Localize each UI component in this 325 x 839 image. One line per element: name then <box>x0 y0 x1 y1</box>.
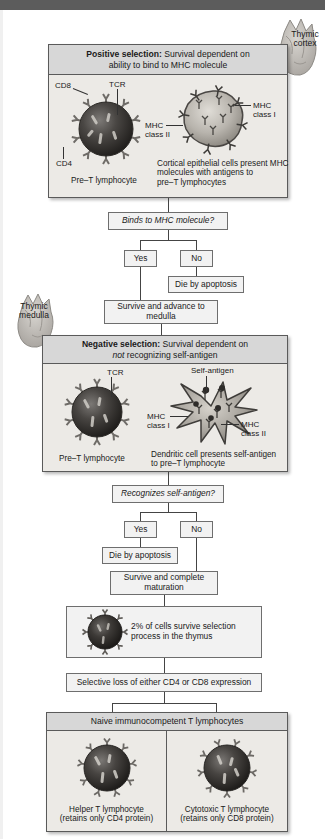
connector-decision2-split <box>140 512 197 513</box>
cytotoxic-t-lymphocyte-cell-container: Cytotoxic T lymphocyte (retains only CD8… <box>167 731 287 831</box>
cortical-epithelial-caption-line3: pre–T lymphocytes <box>157 178 226 187</box>
decision1-no-box: No <box>180 250 213 267</box>
connector-survive-to-negative-panel <box>161 324 162 335</box>
positive-selection-panel: Positive selection: Survival dependent o… <box>48 44 288 198</box>
survive-maturation-line2: maturation <box>144 582 184 592</box>
cd4-leader-line <box>63 147 64 159</box>
naive-t-lymphocytes-panel: Naive immunocompetent T lymphocytes <box>46 712 288 832</box>
surviving-t-cell-illustration <box>77 607 133 657</box>
self-antigen-leader-line <box>206 376 207 391</box>
thymic-medulla-label-line2: medulla <box>19 310 49 320</box>
pre-t-lymphocyte-cell-negative <box>57 376 137 448</box>
selective-loss-label: Selective loss of either CD4 or CD8 expr… <box>77 678 252 688</box>
survive-advance-medulla-box: Survive and advance to medulla <box>104 300 218 324</box>
helper-t-caption-line1: Helper T lymphocyte <box>69 805 144 814</box>
mhc-class-ii-line2-positive: class II <box>145 130 170 139</box>
die-by-apoptosis-box-1: Die by apoptosis <box>168 276 244 293</box>
mhc-class-ii-line1-positive: MHC <box>145 121 163 130</box>
thymic-cortex-label-line2: cortex <box>293 38 316 48</box>
cytotoxic-t-lymphocyte-caption: Cytotoxic T lymphocyte (retains only CD8… <box>167 805 287 824</box>
positive-selection-header-line2: ability to bind to MHC molecule <box>109 60 227 70</box>
connector-decision1-no-down <box>196 240 197 250</box>
connector-naive-right-down <box>216 703 217 712</box>
survive-maturation-line1: Survive and complete <box>124 572 205 582</box>
dendritic-cell-caption: Dendritic cell presents self-antigen to … <box>151 450 276 469</box>
connector-survival-to-selective-loss <box>164 658 165 673</box>
decision1-no-label: No <box>191 254 202 264</box>
tcr-label-positive: TCR <box>109 80 125 89</box>
negative-selection-header-bold: Negative selection: <box>82 339 160 349</box>
connector-negative-to-decision2 <box>168 472 169 485</box>
decision2-yes-box: Yes <box>124 521 157 538</box>
page-left-edge <box>0 10 3 839</box>
naive-panel-header: Naive immunocompetent T lymphocytes <box>47 713 287 731</box>
mhc-class-i-leader-positive <box>235 105 251 106</box>
cortical-epithelial-cell <box>175 85 251 155</box>
cytotoxic-t-caption-line1: Cytotoxic T lymphocyte <box>185 805 269 814</box>
decision2-yes-label: Yes <box>134 525 148 535</box>
cortical-epithelial-caption: Cortical epithelial cells present MHC mo… <box>157 159 289 187</box>
helper-t-lymphocyte-cell-container: Helper T lymphocyte (retains only CD4 pr… <box>47 731 167 831</box>
mhc-class-i-line1-positive: MHC <box>253 101 271 110</box>
negative-selection-header-rest: Survival dependent on <box>160 339 248 349</box>
mhc-class-ii-line2-negative: class II <box>241 429 266 438</box>
negative-selection-header-not: not <box>112 350 124 360</box>
negative-selection-header: Negative selection: Survival dependent o… <box>43 336 287 364</box>
dendritic-cell-caption-line2: to pre–T lymphocyte <box>151 459 225 468</box>
cytotoxic-t-caption-line2: (retains only CD8 protein) <box>180 814 273 823</box>
connector-decision2-yes-to-apoptosis <box>140 538 141 547</box>
mhc-class-ii-label-positive: MHC class II <box>145 121 170 139</box>
negative-selection-panel: Negative selection: Survival dependent o… <box>42 335 288 472</box>
decision1-yes-label: Yes <box>134 254 148 264</box>
connector-naive-left-down <box>112 703 113 712</box>
decision-recognizes-self-antigen-text: Recognizes self-antigen? <box>121 489 215 499</box>
cd8-label: CD8 <box>55 81 71 90</box>
pre-t-lymphocyte-caption-positive: Pre–T lymphocyte <box>71 176 137 185</box>
connector-selective-loss-down <box>164 692 165 703</box>
thymic-medulla-label: Thymic medulla <box>11 302 57 321</box>
pre-t-lymphocyte-caption-negative: Pre–T lymphocyte <box>59 454 125 463</box>
decision-recognizes-self-antigen: Recognizes self-antigen? <box>112 485 224 503</box>
cortical-epithelial-caption-line1: Cortical epithelial cells present MHC <box>157 159 289 168</box>
positive-selection-header-rest: Survival dependent on <box>162 49 250 59</box>
tcr-label-negative: TCR <box>107 368 123 377</box>
mhc-class-i-line2-negative: class I <box>147 421 170 430</box>
survival-percentage-line2: process in the thymus <box>131 631 212 641</box>
naive-panel-header-label: Naive immunocompetent T lymphocytes <box>91 716 244 726</box>
decision-binds-to-mhc-text: Binds to MHC molecule? <box>122 216 214 226</box>
connector-decision1-down <box>168 230 169 240</box>
mhc-class-ii-leader-positive <box>166 125 183 126</box>
die-by-apoptosis-box-2: Die by apoptosis <box>102 547 178 564</box>
self-antigen-label: Self-antigen <box>191 366 234 375</box>
mhc-class-i-line1-negative: MHC <box>147 412 165 421</box>
die-by-apoptosis-label-1: Die by apoptosis <box>175 280 237 290</box>
connector-decision1-yes-down <box>140 240 141 250</box>
decision2-no-box: No <box>180 521 213 538</box>
connector-decision2-no-down <box>196 512 197 521</box>
dendritic-cell-caption-line1: Dendritic cell presents self-antigen <box>151 450 276 459</box>
helper-t-lymphocyte-illustration <box>69 735 145 801</box>
mhc-class-i-label-positive: MHC class I <box>253 101 276 119</box>
die-by-apoptosis-label-2: Die by apoptosis <box>109 551 171 561</box>
cd4-label: CD4 <box>56 159 72 168</box>
survival-percentage-line1: 2% of cells survive selection <box>131 621 236 631</box>
cortical-epithelial-caption-line2: molecules with antigens to <box>157 168 253 177</box>
connector-decision1-split <box>140 240 197 241</box>
connector-decision1-yes-to-survive <box>140 267 141 300</box>
thymic-cortex-label: Thymic cortex <box>284 30 325 49</box>
mhc-class-ii-label-negative: MHC class II <box>241 420 266 438</box>
connector-decision2-down <box>168 503 169 512</box>
negative-selection-body: TCR Pre–T lymphocyte <box>43 364 287 471</box>
negative-selection-header-line2-rest: recognizing self-antigen <box>124 350 217 360</box>
connector-maturation-to-survival-box <box>164 595 165 606</box>
mhc-class-ii-leader-negative <box>221 424 239 425</box>
decision2-no-label: No <box>191 525 202 535</box>
helper-t-caption-line2: (retains only CD4 protein) <box>60 814 153 823</box>
helper-t-lymphocyte-caption: Helper T lymphocyte (retains only CD4 pr… <box>47 805 166 824</box>
page-top-edge-bar <box>0 0 325 10</box>
survive-advance-line2: medulla <box>146 311 175 321</box>
survive-advance-line1: Survive and advance to <box>117 301 205 311</box>
tcr-leader-line-negative <box>111 377 112 397</box>
mhc-class-i-line2-positive: class I <box>253 110 276 119</box>
survival-percentage-box: 2% of cells survive selection process in… <box>66 606 262 658</box>
